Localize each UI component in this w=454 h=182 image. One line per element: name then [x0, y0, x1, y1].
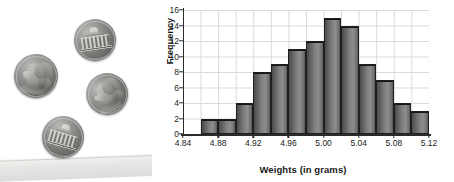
- x-tick-label: 5.08: [386, 138, 403, 148]
- bar-top-edge: [237, 104, 253, 105]
- histogram-bars: [183, 10, 429, 134]
- histogram-bar: [341, 26, 359, 135]
- x-tick-label: 4.96: [280, 138, 297, 148]
- bar-top-edge: [307, 42, 323, 43]
- x-axis-label: Weights (in grams): [152, 164, 454, 175]
- x-tick-label: 5.04: [350, 138, 367, 148]
- coin-nickel-reverse-top: [71, 16, 118, 63]
- y-axis-label: Frequency: [165, 0, 179, 87]
- x-tick-mark: [288, 134, 289, 138]
- x-tick-mark: [323, 134, 324, 138]
- histogram-bar: [271, 64, 289, 134]
- bar-top-edge: [360, 65, 376, 66]
- coin-relief-monticello: [37, 111, 89, 163]
- bar-top-edge: [202, 120, 218, 121]
- coin-relief-jefferson: [79, 66, 135, 122]
- coin-relief-jefferson: [12, 52, 60, 100]
- coin-nickel-obverse-left: [12, 52, 60, 100]
- histogram-bar: [411, 111, 429, 134]
- x-tick-mark: [393, 134, 394, 138]
- figure-root: 0246810121416 4.844.884.924.965.005.045.…: [0, 0, 454, 182]
- jefferson-profile-nose: [23, 71, 33, 79]
- bar-top-edge: [289, 50, 305, 51]
- x-tick-label: 4.92: [245, 138, 262, 148]
- bar-top-edge: [325, 19, 341, 20]
- x-tick-mark: [253, 134, 254, 138]
- histogram-bar: [376, 80, 394, 134]
- histogram-bar: [236, 103, 254, 134]
- bar-top-edge: [272, 65, 288, 66]
- histogram-bar: [218, 119, 236, 135]
- x-tick-label: 4.88: [210, 138, 227, 148]
- coin-photograph: [0, 0, 152, 182]
- bar-top-edge: [254, 73, 270, 74]
- histogram-bar: [306, 41, 324, 134]
- x-tick-label: 5.12: [421, 138, 438, 148]
- histogram-bar: [394, 103, 412, 134]
- bar-top-edge: [395, 104, 411, 105]
- coin-nickel-reverse-bottom: [37, 111, 89, 163]
- x-tick-mark: [217, 134, 218, 138]
- x-tick-label: 5.00: [315, 138, 332, 148]
- x-tick-mark: [428, 134, 429, 138]
- bar-top-edge: [342, 27, 358, 28]
- coin-nickel-obverse-right: [79, 66, 135, 122]
- x-tick-mark: [358, 134, 359, 138]
- histogram-chart: 0246810121416 4.844.884.924.965.005.045.…: [152, 0, 454, 182]
- bar-top-edge: [219, 120, 235, 121]
- x-tick-label: 4.84: [175, 138, 192, 148]
- bar-top-edge: [412, 112, 428, 113]
- histogram-bar: [201, 119, 219, 135]
- bar-top-edge: [377, 81, 393, 82]
- histogram-bar: [253, 72, 271, 134]
- x-tick-mark: [182, 134, 183, 138]
- histogram-bar: [324, 18, 342, 134]
- histogram-bar: [288, 49, 306, 134]
- histogram-bar: [359, 64, 377, 134]
- coin-relief-monticello: [71, 16, 118, 63]
